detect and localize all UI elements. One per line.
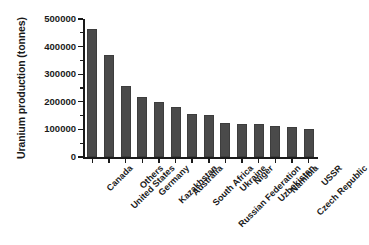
plot-area — [84, 19, 317, 157]
x-axis-tick — [291, 158, 292, 163]
x-axis-tick — [191, 158, 192, 163]
y-axis-tick-5 — [78, 18, 83, 19]
x-axis-tick — [125, 158, 126, 163]
bar-ussr — [304, 129, 314, 157]
bar-niger — [237, 124, 247, 157]
x-axis-tick — [258, 158, 259, 163]
bar-others — [121, 86, 131, 157]
x-axis-tick — [92, 158, 93, 163]
y-axis-tick-label: 300000 — [20, 69, 76, 79]
bar-czech-republic — [287, 127, 297, 157]
y-axis-tick-4 — [78, 46, 83, 47]
y-axis-tick-1 — [78, 129, 83, 130]
bar-australia — [171, 107, 181, 157]
bar-germany — [137, 97, 147, 157]
y-axis-tick-label: 0 — [20, 152, 76, 162]
x-axis-tick — [158, 158, 159, 163]
y-axis-tick-label: 200000 — [20, 97, 76, 107]
x-axis-tick — [142, 158, 143, 163]
bar-south-africa — [187, 114, 197, 157]
y-axis-tick-0 — [78, 156, 83, 157]
x-axis-label: Canada — [105, 163, 135, 193]
x-axis-tick — [108, 158, 109, 163]
y-axis-tick-label: 500000 — [20, 14, 76, 24]
y-axis-tick-3 — [78, 74, 83, 75]
y-axis-tick-labels: 0100000200000300000400000500000 — [18, 0, 76, 245]
y-axis-tick-label: 400000 — [20, 42, 76, 52]
bar-ukraine — [220, 123, 230, 158]
bar-canada — [87, 29, 97, 157]
y-axis-minor-tick — [80, 87, 83, 88]
bar-uzbekistan — [254, 124, 264, 157]
x-axis-tick — [241, 158, 242, 163]
bar-namibia — [270, 126, 280, 157]
x-axis-line — [83, 157, 318, 159]
y-axis-minor-tick — [80, 143, 83, 144]
x-axis-tick — [225, 158, 226, 163]
y-axis-minor-tick — [80, 115, 83, 116]
y-axis-tick-label: 100000 — [20, 124, 76, 134]
x-axis-tick — [208, 158, 209, 163]
y-axis-minor-tick — [80, 32, 83, 33]
y-axis-minor-tick — [80, 60, 83, 61]
x-axis-tick — [175, 158, 176, 163]
x-axis-label: Niger — [252, 163, 275, 186]
x-axis-tick — [275, 158, 276, 163]
x-axis-tick — [308, 158, 309, 163]
bar-united-states — [104, 55, 114, 157]
bar-russian-federation — [204, 115, 214, 157]
y-axis-tick-2 — [78, 101, 83, 102]
bar-kazakhstan — [154, 102, 164, 157]
